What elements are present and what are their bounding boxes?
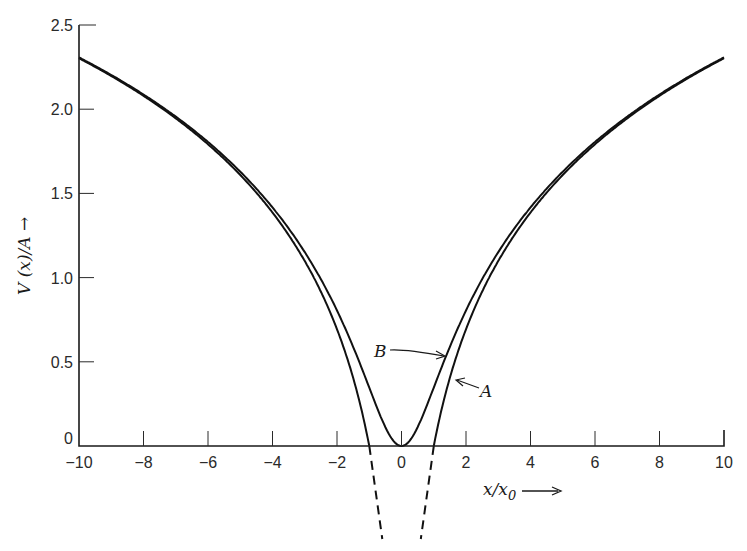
y-tick-label: 0.5 (51, 354, 73, 371)
axes (79, 25, 724, 446)
axis-frame (79, 25, 724, 446)
x-tick-label: 4 (526, 454, 535, 471)
y-axis-label-text: V (x)/A → (14, 217, 34, 295)
x-tick-label: 6 (591, 454, 600, 471)
y-tick-label: 1.5 (51, 185, 73, 202)
x-tick-label: 8 (655, 454, 664, 471)
x-tick-label: −10 (65, 454, 92, 471)
x-tick-label: −4 (263, 454, 281, 471)
x-tick-label: 10 (715, 454, 733, 471)
annotation-b-label: B (373, 341, 387, 361)
x-tick-label: −6 (199, 454, 217, 471)
x-axis-label-text: x/x0 (483, 479, 516, 503)
x-tick-label: 2 (462, 454, 471, 471)
x-tick-label: −2 (328, 454, 346, 471)
series-b (79, 57, 724, 446)
y-tick-label: 0 (64, 430, 73, 447)
y-tick-label: 2.5 (51, 17, 73, 34)
x-axis-ticks: −10−8−6−4−20246810 (65, 431, 733, 471)
y-tick-label: 1.0 (51, 270, 73, 287)
series-a-left (79, 58, 369, 446)
series-a-left-dashed (369, 446, 382, 539)
annotation-b: B (373, 341, 445, 361)
y-tick-label: 2.0 (51, 101, 73, 118)
annotation-a: A (456, 378, 492, 401)
annotation-a-label: A (478, 381, 492, 401)
series-a-right-dashed (421, 446, 434, 539)
annotation-b-arrow-icon (390, 350, 444, 356)
x-tick-label: 0 (397, 454, 406, 471)
x-axis-label: x/x0 (483, 479, 561, 503)
y-axis-label: V (x)/A → (14, 217, 34, 295)
chart: −10−8−6−4−20246810 00.51.01.52.02.5 V (x… (0, 0, 747, 551)
y-axis-ticks: 00.51.01.52.02.5 (51, 17, 94, 447)
x-tick-label: −8 (134, 454, 152, 471)
